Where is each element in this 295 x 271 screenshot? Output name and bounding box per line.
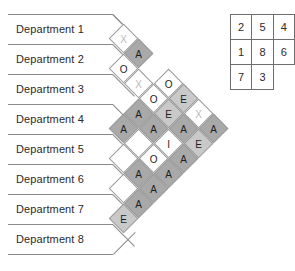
layout-cell-empty (273, 65, 294, 90)
layout-table-row: 73 (231, 65, 295, 90)
layout-cell-department-1[interactable]: 1 (231, 40, 252, 65)
layout-table-row: 186 (231, 40, 295, 65)
layout-table-body: 25418673 (231, 15, 295, 90)
layout-cell-department-6[interactable]: 6 (273, 40, 294, 65)
layout-cell-department-4[interactable]: 4 (273, 15, 294, 40)
layout-cell-department-7[interactable]: 7 (231, 65, 252, 90)
rel-chart-figure: Department 1Department 2Department 3Depa… (0, 0, 295, 271)
layout-table-row: 254 (231, 15, 295, 40)
layout-arrangement-table: 25418673 (230, 14, 295, 90)
layout-cell-department-3[interactable]: 3 (252, 65, 273, 90)
layout-cell-department-2[interactable]: 2 (231, 15, 252, 40)
layout-cell-department-5[interactable]: 5 (252, 15, 273, 40)
layout-cell-department-8[interactable]: 8 (252, 40, 273, 65)
relationship-rating-glyph: E (113, 210, 134, 231)
